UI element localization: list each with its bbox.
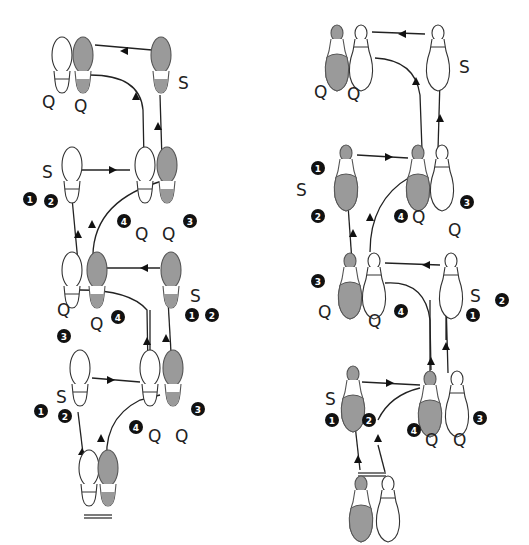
timing-label: S (56, 387, 67, 407)
step-number-badge: 4 (117, 214, 131, 228)
step-number-badge: 1 (23, 192, 37, 206)
timing-label: S (296, 180, 307, 200)
step-number-badge: 3 (191, 402, 205, 416)
foot-icon (157, 147, 177, 203)
timing-label: Q (412, 207, 425, 227)
timing-label: S (190, 286, 201, 306)
step-number-badge: 2 (495, 293, 509, 307)
foot-icon (73, 37, 93, 93)
step-number-badge: 2 (205, 308, 219, 322)
foot-icon (151, 37, 171, 93)
step-number-badge: 4 (111, 310, 125, 324)
step-number-badge: 4 (407, 423, 421, 437)
leader-diagram: Q Q S S Q Q Q Q S S Q Q 1 2 4 3 4 3 1 2 … (23, 37, 219, 518)
timing-label: Q (318, 302, 331, 322)
foot-icon (79, 450, 99, 506)
foot-icon (140, 350, 160, 406)
timing-label: Q (74, 96, 87, 116)
step-number-badge: 3 (473, 411, 487, 425)
timing-label: Q (347, 84, 360, 104)
timing-label: Q (42, 92, 55, 112)
svg-text:3: 3 (187, 217, 193, 227)
step-number-badge: 3 (57, 329, 71, 343)
step-number-badge: 2 (44, 194, 58, 208)
timing-label: S (42, 162, 53, 182)
timing-label: Q (368, 311, 381, 331)
step-number-badge: 2 (58, 409, 72, 423)
timing-label: Q (448, 220, 461, 240)
svg-text:2: 2 (499, 296, 505, 306)
step-number-badge: 3 (311, 274, 325, 288)
svg-text:2: 2 (48, 197, 54, 207)
svg-text:3: 3 (464, 198, 470, 208)
svg-text:4: 4 (121, 217, 127, 227)
step-number-badge: 1 (311, 161, 325, 175)
svg-text:1: 1 (27, 195, 33, 205)
step-number-badge: 2 (311, 209, 325, 223)
heel-foot-icon (362, 253, 385, 319)
step-number-badge: 3 (460, 195, 474, 209)
svg-text:3: 3 (195, 405, 201, 415)
heel-foot-icon (426, 25, 449, 91)
step-number-badge: 4 (129, 420, 143, 434)
step-number-badge: 3 (183, 214, 197, 228)
svg-text:2: 2 (366, 416, 372, 426)
foot-icon (135, 147, 155, 203)
svg-text:4: 4 (133, 423, 139, 433)
foot-icon (70, 350, 90, 406)
timing-label: Q (148, 426, 161, 446)
svg-text:2: 2 (209, 311, 215, 321)
step-number-badge: 4 (394, 209, 408, 223)
timing-label: S (178, 73, 189, 93)
timing-label: S (325, 389, 336, 409)
svg-text:1: 1 (189, 311, 195, 321)
timing-label: S (459, 57, 470, 77)
heel-foot-icon (349, 25, 372, 91)
heel-foot-icon (418, 371, 442, 437)
step-number-badge: 1 (325, 413, 339, 427)
svg-text:4: 4 (115, 313, 121, 323)
heel-foot-icon (439, 253, 462, 319)
svg-text:3: 3 (477, 414, 483, 424)
heel-foot-icon (334, 145, 358, 211)
timing-label: Q (90, 314, 103, 334)
footprints (52, 37, 183, 506)
heel-foot-icon (341, 366, 365, 432)
timing-label: Q (162, 224, 175, 244)
svg-text:3: 3 (315, 277, 321, 287)
svg-text:2: 2 (62, 412, 68, 422)
step-number-badge: 2 (362, 413, 376, 427)
follower-diagram: Q Q S S Q Q Q Q S S Q Q 1 2 4 3 3 4 2 1 … (296, 25, 509, 542)
svg-text:1: 1 (315, 164, 321, 174)
heel-foot-icon (338, 253, 362, 319)
step-number-badge: 1 (185, 308, 199, 322)
svg-text:4: 4 (398, 212, 404, 222)
foot-icon (98, 450, 118, 506)
step-number-badge: 1 (34, 404, 48, 418)
step-number-badge: 1 (466, 308, 480, 322)
foot-icon (52, 37, 72, 93)
heel-foot-icon (376, 476, 399, 542)
timing-label: Q (453, 430, 466, 450)
start-line (358, 473, 386, 476)
timing-label: Q (314, 82, 327, 102)
svg-text:1: 1 (329, 416, 335, 426)
foot-icon (87, 252, 107, 308)
timing-label: Q (175, 426, 188, 446)
svg-text:3: 3 (61, 332, 67, 342)
heel-foot-icon (445, 371, 468, 437)
svg-text:4: 4 (398, 307, 404, 317)
heel-foot-icon (349, 476, 373, 542)
timing-label: Q (135, 224, 148, 244)
svg-text:1: 1 (38, 407, 44, 417)
timing-label: Q (425, 430, 438, 450)
svg-text:1: 1 (470, 311, 476, 321)
heel-foot-icon (325, 25, 349, 91)
heel-foot-icon (406, 145, 430, 211)
foot-icon (163, 350, 183, 406)
svg-text:2: 2 (315, 212, 321, 222)
svg-text:4: 4 (411, 426, 417, 436)
foot-icon (62, 147, 82, 203)
start-line (84, 515, 112, 518)
step-numbers: 1 2 4 3 4 3 1 2 1 2 4 3 (23, 192, 219, 434)
